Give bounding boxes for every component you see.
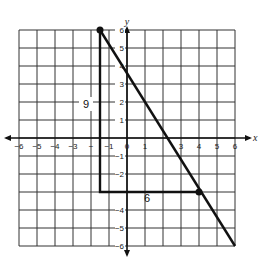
y-tick-label: −2 bbox=[115, 170, 125, 179]
point-marker bbox=[196, 189, 203, 196]
x-axis-right-arrow-icon bbox=[245, 135, 252, 141]
x-tick-label: 1 bbox=[143, 142, 148, 151]
horizontal-leg-label: 6 bbox=[144, 192, 150, 204]
x-axis-left-arrow-icon bbox=[4, 135, 11, 141]
y-tick-label: −1 bbox=[115, 152, 125, 161]
y-tick-label: 3 bbox=[120, 80, 125, 89]
x-tick-label: −3 bbox=[68, 142, 78, 151]
x-tick-label: −6 bbox=[14, 142, 24, 151]
y-tick-label: 6 bbox=[120, 26, 125, 35]
x-tick-label: −4 bbox=[50, 142, 60, 151]
y-tick-label: 1 bbox=[120, 116, 125, 125]
x-tick-label: 0 bbox=[125, 142, 130, 151]
point-marker bbox=[97, 27, 104, 34]
x-tick-label: −5 bbox=[32, 142, 42, 151]
y-tick-label: −5 bbox=[115, 224, 125, 233]
x-axis-label: x bbox=[252, 132, 258, 143]
coordinate-plane: −6−5−4−3−−1013456654321−1−2−4−5−6 y x 9 … bbox=[0, 0, 260, 262]
x-tick-label: 4 bbox=[197, 142, 202, 151]
y-tick-label: 2 bbox=[120, 98, 125, 107]
x-tick-label: − bbox=[89, 142, 94, 151]
x-tick-label: 3 bbox=[179, 142, 184, 151]
x-tick-label: 5 bbox=[215, 142, 220, 151]
x-tick-label: 6 bbox=[233, 142, 238, 151]
y-axis-down-arrow-icon bbox=[124, 250, 130, 257]
y-tick-label: −4 bbox=[115, 206, 125, 215]
triangle bbox=[79, 27, 235, 247]
y-axis-label: y bbox=[124, 16, 130, 27]
y-tick-label: −6 bbox=[115, 242, 125, 251]
y-tick-label: 5 bbox=[120, 44, 125, 53]
x-tick-label: −1 bbox=[104, 142, 114, 151]
vertical-leg-label: 9 bbox=[83, 98, 89, 110]
